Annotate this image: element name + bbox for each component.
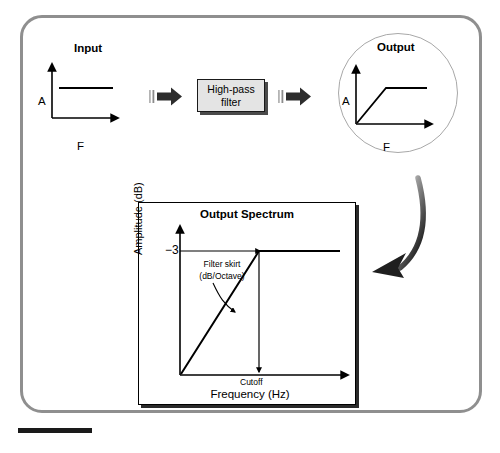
filter-label-line1: High-pass bbox=[207, 83, 254, 95]
input-title: Input bbox=[74, 42, 102, 54]
filter-skirt-annotation-line2: (dB/Octave) bbox=[191, 271, 253, 282]
output-y-axis-label: A bbox=[342, 95, 350, 107]
high-pass-filter-block: High-pass filter bbox=[197, 79, 265, 112]
filter-skirt-annotation-line1: Filter skirt bbox=[191, 259, 253, 270]
cutoff-label: Cutoff bbox=[240, 377, 263, 387]
output-title: Output bbox=[377, 41, 415, 53]
output-x-axis-label: F bbox=[383, 141, 390, 153]
output-spectrum-panel bbox=[138, 202, 356, 405]
spectrum-panel-title: Output Spectrum bbox=[138, 208, 356, 220]
bottom-rule bbox=[18, 428, 92, 433]
spectrum-y-tick-minus3: −3 bbox=[165, 243, 179, 257]
filter-label-line2: filter bbox=[221, 96, 241, 108]
input-x-axis-label: F bbox=[77, 140, 84, 152]
spectrum-x-axis-label: Frequency (Hz) bbox=[175, 388, 325, 400]
input-y-axis-label: A bbox=[38, 95, 46, 107]
spectrum-y-axis-label: Amplitude (dB) bbox=[132, 155, 144, 255]
diagram-page: High-pass filter bbox=[0, 0, 500, 453]
